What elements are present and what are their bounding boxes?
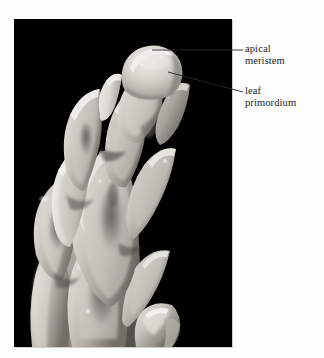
label-leaf-primordium-line-1: leaf — [245, 85, 296, 97]
specimen-image — [14, 19, 232, 347]
label-apical-meristem-line-1: apical — [245, 43, 285, 55]
shoot-apex-photograph — [14, 19, 232, 347]
label-apical-meristem-line-2: meristem — [245, 55, 285, 67]
figure-root: apical meristem leaf primordium — [0, 0, 324, 358]
label-leaf-primordium: leaf primordium — [245, 85, 296, 110]
label-apical-meristem: apical meristem — [245, 43, 285, 68]
label-leaf-primordium-line-2: primordium — [245, 97, 296, 109]
